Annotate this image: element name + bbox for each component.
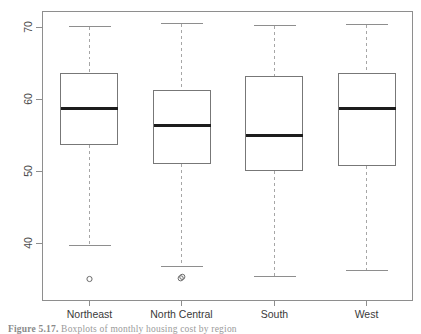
x-category-label-northeast: Northeast	[67, 308, 113, 320]
caption-body: Boxplots of monthly housing cost by regi…	[59, 324, 237, 334]
x-axis-category-labels: NortheastNorth CentralSouthWest	[67, 308, 379, 320]
x-category-label-north-central: North Central	[150, 308, 212, 320]
boxplot-figure: 40506070 NortheastNorth CentralSouthWest…	[0, 0, 421, 334]
x-category-label-south: South	[261, 308, 289, 320]
x-axis-ticks	[90, 301, 367, 307]
box-iqr	[246, 77, 303, 171]
boxplot-group	[339, 25, 396, 271]
x-category-label-west: West	[355, 308, 379, 320]
boxplot-group	[154, 24, 211, 281]
y-axis-ticks	[36, 28, 43, 244]
plot-frame	[43, 12, 413, 301]
figure-caption: Figure 5.17. Boxplots of monthly housing…	[8, 324, 418, 334]
y-tick-label: 70	[22, 21, 34, 33]
outlier-point	[87, 276, 92, 281]
y-axis-tick-labels: 40506070	[22, 21, 34, 249]
y-tick-label: 60	[22, 93, 34, 105]
boxplot-group	[61, 27, 118, 282]
boxplot-chart: 40506070 NortheastNorth CentralSouthWest	[0, 0, 421, 334]
caption-figure-number: Figure 5.17.	[8, 324, 59, 334]
box-iqr	[154, 91, 211, 164]
box-iqr	[339, 74, 396, 166]
y-tick-label: 50	[22, 165, 34, 177]
y-tick-label: 40	[22, 237, 34, 249]
boxplot-group	[246, 26, 303, 277]
box-group-layer	[61, 24, 396, 282]
